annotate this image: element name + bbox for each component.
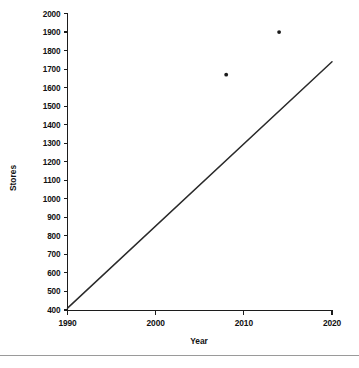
x-tick-label: 2000: [147, 318, 166, 328]
x-tick-label: 2020: [323, 318, 342, 328]
y-tick-label: 1900: [43, 28, 61, 37]
footer-divider: [0, 355, 359, 356]
chart-canvas: 4005006007008009001000110012001300140015…: [0, 0, 359, 368]
x-axis-group: 1990200020102020: [58, 310, 341, 328]
chart-figure: 4005006007008009001000110012001300140015…: [0, 0, 359, 368]
scatter-series: [224, 30, 281, 76]
trend-line-series: [68, 62, 333, 308]
y-tick-labels: 4005006007008009001000110012001300140015…: [43, 10, 61, 316]
x-tick-label: 2010: [235, 318, 254, 328]
y-tick-label: 1800: [43, 47, 61, 56]
y-axis-title: Stores: [8, 165, 18, 191]
y-tick-label: 400: [47, 306, 61, 315]
y-tick-label: 1500: [43, 102, 61, 111]
trend-line: [68, 62, 333, 308]
y-tick-label: 1700: [43, 65, 61, 74]
data-point: [277, 30, 281, 34]
y-tick-label: 500: [47, 287, 61, 296]
x-axis-title: Year: [190, 336, 208, 346]
y-tick-label: 1000: [43, 195, 61, 204]
y-axis-group: 4005006007008009001000110012001300140015…: [43, 10, 68, 316]
y-tick-label: 900: [47, 213, 61, 222]
x-tick-label: 1990: [58, 318, 77, 328]
y-tick-label: 700: [47, 250, 61, 259]
y-tick-label: 800: [47, 232, 61, 241]
y-tick-label: 600: [47, 269, 61, 278]
y-tick-label: 1100: [43, 176, 61, 185]
y-tick-label: 1600: [43, 84, 61, 93]
y-tick-label: 1200: [43, 158, 61, 167]
y-tick-label: 2000: [43, 10, 61, 19]
y-tick-label: 1400: [43, 121, 61, 130]
data-layer: [68, 30, 333, 308]
data-point: [224, 73, 228, 77]
x-tick-labels: 1990200020102020: [58, 318, 341, 328]
y-tick-label: 1300: [43, 139, 61, 148]
